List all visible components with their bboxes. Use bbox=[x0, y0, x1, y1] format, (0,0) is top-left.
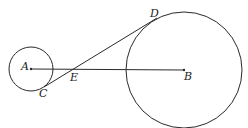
label-a: A bbox=[20, 60, 29, 73]
geometry-diagram: A B C D E bbox=[0, 0, 248, 128]
tangent-cd bbox=[44, 18, 157, 87]
label-c: C bbox=[39, 87, 48, 100]
segment-ab bbox=[31, 69, 184, 70]
label-e: E bbox=[69, 71, 78, 84]
label-d: D bbox=[149, 7, 159, 20]
point-a-dot bbox=[30, 68, 32, 70]
label-b: B bbox=[183, 70, 192, 83]
